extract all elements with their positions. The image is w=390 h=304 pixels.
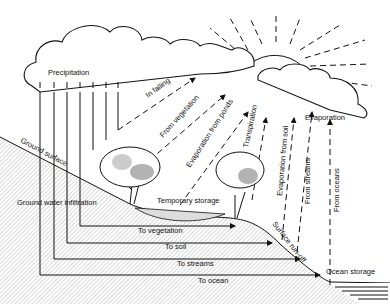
cloud-icon bbox=[258, 64, 367, 118]
from-oceans-label: From oceans bbox=[332, 168, 341, 212]
from-streams-label: From streams bbox=[303, 157, 312, 204]
tree-icon bbox=[216, 152, 264, 218]
ocean-storage-label: Ocean storage bbox=[326, 267, 375, 276]
evaporation-label: Evaporation bbox=[305, 113, 345, 122]
hydrologic-cycle-diagram: Precipitation In falling From vegetation… bbox=[0, 0, 390, 304]
to-vegetation-label: To vegetation bbox=[138, 226, 183, 235]
to-streams-label: To streams bbox=[177, 259, 214, 268]
precipitation-label: Precipitation bbox=[48, 68, 89, 77]
temporary-storage-label: Temporary storage bbox=[157, 196, 220, 205]
from-vegetation-label: From vegetation bbox=[158, 93, 201, 139]
to-soil-label: To soil bbox=[165, 242, 187, 251]
ground-water-infiltration-label: Ground water infiltration bbox=[17, 198, 97, 207]
to-ocean-label: To ocean bbox=[198, 276, 228, 285]
cloud-icon bbox=[24, 26, 254, 92]
evaporation-from-soil-label: Evaporation from soil bbox=[275, 125, 290, 196]
transpiration-label: Transpiration bbox=[241, 104, 259, 148]
